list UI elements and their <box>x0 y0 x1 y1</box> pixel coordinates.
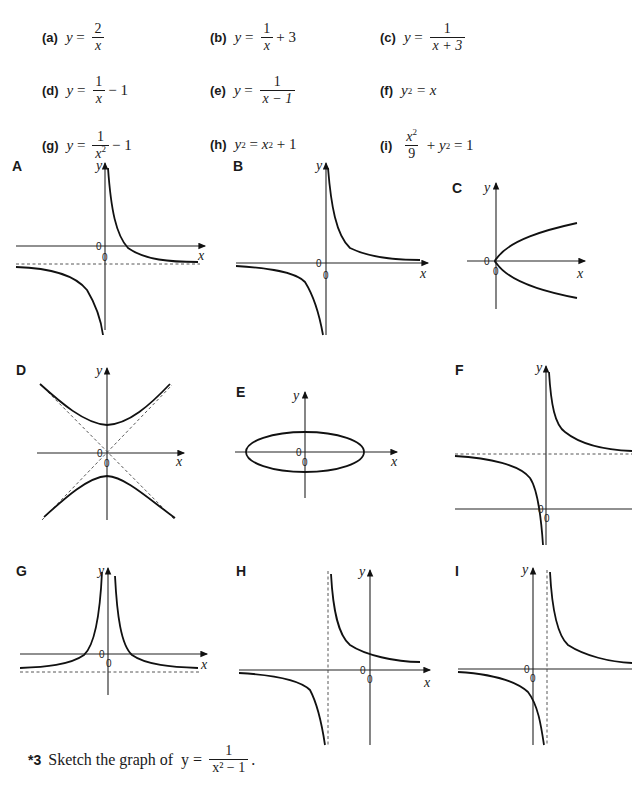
svg-text:y: y <box>534 360 543 375</box>
svg-text:0: 0 <box>367 674 373 685</box>
svg-text:0: 0 <box>316 258 322 269</box>
svg-text:0: 0 <box>102 252 108 263</box>
question-3: *3 Sketch the graph of y = 1 x² − 1 . <box>28 744 255 775</box>
graph-g: y x 0 0 <box>20 563 208 695</box>
svg-text:0: 0 <box>323 270 329 281</box>
svg-text:y: y <box>482 180 491 195</box>
svg-text:y: y <box>357 564 366 579</box>
svg-text:x: x <box>197 248 205 263</box>
question-fraction: 1 x² − 1 <box>209 744 248 775</box>
svg-text:y: y <box>291 388 300 403</box>
svg-text:x: x <box>576 266 584 281</box>
svg-text:y: y <box>94 363 103 378</box>
svg-text:y: y <box>94 158 103 173</box>
svg-text:0: 0 <box>530 673 536 684</box>
svg-text:0: 0 <box>96 241 102 252</box>
graph-c: y x 0 0 <box>467 180 585 309</box>
graph-d: y x 0 0 <box>37 363 184 520</box>
svg-text:0: 0 <box>104 458 110 469</box>
svg-text:x: x <box>175 454 183 469</box>
svg-text:0: 0 <box>484 256 490 267</box>
svg-text:0: 0 <box>360 665 366 676</box>
svg-text:y: y <box>96 563 105 578</box>
svg-text:0: 0 <box>97 448 103 459</box>
graph-f: y 0 0 <box>455 360 632 545</box>
question-number: *3 <box>28 752 41 768</box>
svg-text:x: x <box>200 657 208 672</box>
svg-text:0: 0 <box>493 266 499 277</box>
svg-text:x: x <box>419 266 427 281</box>
svg-text:x: x <box>390 454 398 469</box>
svg-text:y: y <box>314 158 323 173</box>
graph-a: y x 0 0 <box>16 158 205 335</box>
graph-i: y 0 0 <box>458 562 632 745</box>
graph-h: y x 0 0 <box>239 564 431 745</box>
svg-text:0: 0 <box>106 658 112 669</box>
svg-text:0: 0 <box>302 457 308 468</box>
svg-text:y: y <box>520 562 529 577</box>
svg-text:0: 0 <box>99 649 105 660</box>
graphs-canvas: y x 0 0 y x 0 0 y x 0 0 y x 0 0 <box>0 0 632 792</box>
svg-text:x: x <box>423 675 431 690</box>
question-text: Sketch the graph of <box>48 751 173 769</box>
graph-e: y x 0 0 <box>235 388 398 498</box>
svg-text:0: 0 <box>544 513 550 524</box>
graph-b: y x 0 0 <box>236 158 428 335</box>
